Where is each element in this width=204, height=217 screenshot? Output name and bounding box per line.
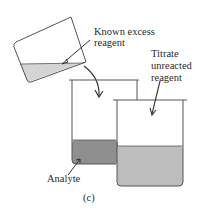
known-excess-label-line1: Known excess: [94, 26, 155, 37]
analyte-label: Analyte: [47, 173, 80, 184]
known-excess-label-line2: reagent: [94, 37, 125, 48]
excess-reagent-liquid: [20, 62, 84, 82]
titrate-label-line2: unreacted: [151, 60, 192, 71]
titrate-label-line1: Titrate: [151, 48, 179, 59]
panel-label: (c): [83, 192, 95, 203]
titration-beaker: [113, 100, 187, 186]
titrate-label-line3: reagent: [151, 72, 182, 83]
pouring-beaker: [14, 17, 86, 82]
unreacted-reagent-liquid: [117, 146, 183, 186]
